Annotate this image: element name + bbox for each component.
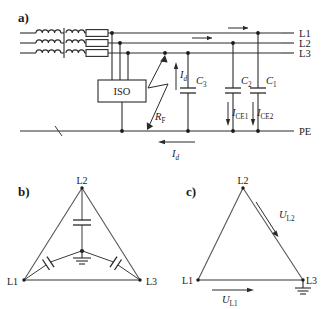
panel-b-vertex-label-l2: L2 <box>76 175 87 186</box>
transformer-secondary-windings <box>66 30 86 53</box>
c3-node-pe <box>186 129 190 133</box>
vertex-node-l1 <box>22 278 25 281</box>
panel-c-vertex-label-l2: L2 <box>237 175 248 186</box>
capacitor-c3-label: C3 <box>196 75 207 89</box>
tap-node-l1 <box>110 31 114 35</box>
earth-current-arrow-ce1 <box>226 102 230 126</box>
c3-node-l3 <box>186 51 190 55</box>
capacitor-c3 <box>180 51 196 133</box>
vertex-node-l3 <box>138 278 141 281</box>
tap-node-l2 <box>118 41 122 45</box>
fuse-l3 <box>86 50 108 57</box>
pe-label: PE <box>299 126 311 137</box>
panel-c-edge-l2-l3 <box>243 188 303 280</box>
voltage-arrow-ul2 <box>256 202 279 237</box>
panel-b-vertex-label-l3: L3 <box>146 276 157 287</box>
panel-b-capacitor-l2 <box>73 190 91 251</box>
panel-c-vertex-label-l1: L1 <box>182 275 193 286</box>
figure-root: a) <box>0 0 335 309</box>
panel-c: c) UL2 UL1 <box>182 175 317 308</box>
voltage-arrow-ul1 <box>212 288 254 292</box>
bus-lines <box>108 33 294 53</box>
panel-c-edge-l2-l1 <box>198 188 243 280</box>
load-current-arrow-l1 <box>228 26 248 30</box>
fault-resistance-label: RF <box>154 111 165 125</box>
return-current-label: Id <box>171 148 180 162</box>
c1-node-l1 <box>256 31 260 35</box>
panel-b: b) <box>7 175 157 287</box>
iso-pe-node <box>120 129 124 133</box>
return-current-arrow <box>158 140 195 144</box>
fault-node-l3 <box>163 51 167 55</box>
pe-bus <box>20 126 294 136</box>
fuse-l2 <box>86 40 108 47</box>
panel-a-label: a) <box>18 10 29 25</box>
panel-c-vertex-node-l2 <box>241 186 244 189</box>
panel-c-vertex-node-l1 <box>196 278 199 281</box>
c2-node-l2 <box>231 41 235 45</box>
panel-b-label: b) <box>18 184 30 199</box>
fuse-blocks <box>86 30 108 57</box>
c1-node-pe <box>256 129 260 133</box>
fuse-l1 <box>86 30 108 37</box>
c2-node-pe <box>231 129 235 133</box>
fault-current-arrow <box>174 62 178 90</box>
earth-current-ce1-label: ICE1 <box>231 107 249 121</box>
transformer-primary-windings <box>20 28 64 58</box>
panel-a: a) <box>18 10 311 162</box>
iso-box-label: ISO <box>114 86 131 97</box>
panel-c-label: c) <box>186 184 196 199</box>
voltage-ul2-label: UL2 <box>279 209 295 223</box>
load-current-arrow-l2 <box>192 36 212 40</box>
voltage-ul1-label: UL1 <box>222 294 238 308</box>
earth-current-arrow-ce2 <box>251 102 255 126</box>
capacitor-c1-label: C1 <box>266 75 277 89</box>
vertex-node-l2 <box>80 186 83 189</box>
panel-c-vertex-label-l3: L3 <box>306 275 317 286</box>
capacitor-c2-label: C2 <box>241 75 252 89</box>
earth-current-ce2-label: ICE2 <box>256 107 274 121</box>
panel-b-vertex-label-l1: L1 <box>7 276 18 287</box>
tap-node-l3 <box>126 51 130 55</box>
fault-current-label: Id <box>179 69 188 83</box>
circuit-diagram-svg: a) <box>0 0 335 309</box>
line-label-l3: L3 <box>299 48 311 59</box>
